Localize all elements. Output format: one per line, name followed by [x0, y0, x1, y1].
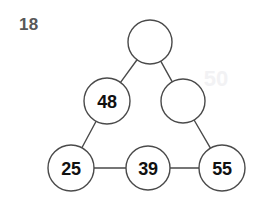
- puzzle-page: 18 50 48253955: [0, 0, 262, 203]
- triangle-puzzle-diagram: 50 48253955: [0, 0, 262, 203]
- watermark-layer: 50: [204, 66, 228, 91]
- node-circle-apex[interactable]: [128, 20, 172, 64]
- node-circle-right-upper[interactable]: [161, 79, 205, 123]
- edge-left-upper-to-bottom-left: [82, 121, 96, 147]
- node-bottom-right[interactable]: 55: [199, 145, 245, 191]
- nodes-layer: 48253955: [48, 20, 245, 191]
- edge-right-upper-to-bottom-right: [194, 120, 210, 148]
- node-apex[interactable]: [128, 20, 172, 64]
- node-label-bottom-left: 25: [61, 159, 81, 179]
- node-bottom-mid[interactable]: 39: [126, 146, 170, 190]
- node-label-left-upper: 48: [97, 92, 117, 112]
- node-left-upper[interactable]: 48: [84, 78, 130, 124]
- edge-apex-to-right-upper: [161, 61, 173, 82]
- node-bottom-left[interactable]: 25: [48, 145, 94, 191]
- background-watermark: 50: [204, 66, 228, 91]
- node-right-upper[interactable]: [161, 79, 205, 123]
- node-label-bottom-mid: 39: [138, 159, 158, 179]
- edge-apex-to-left-upper: [121, 60, 137, 83]
- node-label-bottom-right: 55: [212, 159, 232, 179]
